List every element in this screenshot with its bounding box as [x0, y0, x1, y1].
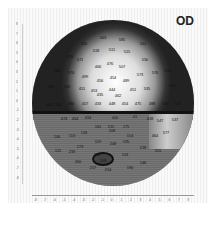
- sensitivity-value: 214: [105, 167, 112, 172]
- sensitivity-value: 571: [77, 57, 84, 62]
- sensitivity-value: 41: [133, 114, 137, 119]
- sensitivity-value: 530: [142, 57, 149, 62]
- sensitivity-value: 573: [137, 72, 144, 77]
- sensitivity-value: 545: [46, 102, 53, 107]
- sensitivity-value: 535: [144, 86, 151, 91]
- y-tick-label: -7: [16, 166, 19, 170]
- x-tick-label: 0: [111, 198, 113, 202]
- sensitivity-value: 515: [124, 49, 131, 54]
- x-axis: [32, 195, 194, 196]
- sensitivity-value: 444: [109, 87, 116, 92]
- x-tick-label: -5: [63, 198, 66, 202]
- sensitivity-value: 464: [152, 133, 159, 138]
- sensitivity-value: 539: [162, 101, 169, 106]
- y-tick-label: 3: [16, 70, 18, 74]
- y-tick-label: 2: [16, 80, 18, 84]
- x-tick-label: -7: [44, 198, 47, 202]
- sensitivity-value: 547: [157, 118, 164, 123]
- sensitivity-value: 206: [54, 134, 61, 139]
- sensitivity-value: 574: [68, 70, 75, 75]
- sensitivity-value: 457: [82, 101, 89, 106]
- sensitivity-value: 208: [110, 141, 117, 146]
- sensitivity-value: 233: [69, 149, 76, 154]
- y-tick-label: 4: [16, 60, 18, 64]
- sensitivity-value: 499: [82, 74, 89, 79]
- y-tick-label: 1: [16, 89, 18, 93]
- sensitivity-value: 456: [97, 78, 104, 83]
- x-tick-label: -6: [53, 198, 56, 202]
- y-tick-label: 8: [16, 22, 18, 26]
- sensitivity-value: 433: [95, 101, 102, 106]
- sensitivity-value: 113: [69, 133, 75, 138]
- x-tick-label: -3: [82, 198, 85, 202]
- x-tick-label: -2: [92, 198, 95, 202]
- y-tick-label: -6: [16, 156, 19, 160]
- sensitivity-value: 196: [127, 165, 134, 170]
- sensitivity-value: 135: [123, 139, 130, 144]
- sensitivity-value: 585: [119, 37, 126, 42]
- sensitivity-value: 217: [90, 165, 97, 170]
- sensitivity-value: 576: [152, 70, 159, 75]
- sensitivity-value: 462: [115, 93, 122, 98]
- sensitivity-value: 532: [64, 84, 71, 89]
- x-tick-label: 5: [159, 198, 161, 202]
- sensitivity-value: 448: [109, 101, 116, 106]
- sensitivity-value: 552: [165, 68, 172, 73]
- sensitivity-value: 119: [95, 139, 101, 144]
- sensitivity-value: 586: [54, 68, 61, 73]
- x-tick-label: 4: [149, 198, 151, 202]
- sensitivity-value: 488: [149, 101, 156, 106]
- sensitivity-value: 435: [97, 92, 104, 97]
- x-tick-label: 6: [168, 198, 170, 202]
- sensitivity-value: 483: [68, 101, 75, 106]
- sensitivity-value: 153: [122, 152, 129, 157]
- sensitivity-value: 476: [107, 61, 114, 66]
- x-tick-label: 2: [130, 198, 132, 202]
- sensitivity-value: 550: [55, 102, 62, 107]
- sensitivity-value: 577: [163, 130, 170, 135]
- x-tick-label: 1: [120, 198, 122, 202]
- sensitivity-value: 161: [95, 124, 102, 129]
- sensitivity-value: 114: [127, 133, 133, 138]
- sensitivity-value: 218: [140, 145, 147, 150]
- sensitivity-value: 118: [100, 158, 106, 163]
- y-tick-label: 6: [16, 41, 18, 45]
- x-tick-label: 7: [178, 198, 180, 202]
- sensitivity-value: 418: [147, 116, 154, 121]
- y-tick-label: 7: [16, 32, 18, 36]
- sensitivity-value: 474: [61, 116, 68, 121]
- y-tick-label: -1: [16, 108, 19, 112]
- y-tick-label: -4: [16, 137, 19, 141]
- sensitivity-value: 555: [169, 83, 176, 88]
- y-tick-label: -8: [16, 176, 19, 180]
- sensitivity-value: 475: [135, 101, 142, 106]
- sensitivity-value: 518: [93, 48, 100, 53]
- sensitivity-value: 454: [122, 101, 129, 106]
- y-tick-label: -3: [16, 128, 19, 132]
- sensitivity-value: 414: [85, 115, 92, 120]
- y-tick-label: -2: [16, 118, 19, 122]
- sensitivity-value: 451: [130, 87, 137, 92]
- y-tick-label: 5: [16, 51, 18, 55]
- sensitivity-value: 208: [109, 128, 116, 133]
- x-tick-label: -4: [72, 198, 75, 202]
- sensitivity-value: 175: [123, 124, 130, 129]
- sensitivity-value: 537: [172, 117, 179, 122]
- sensitivity-value: 511: [109, 47, 115, 52]
- y-tick-label: 0: [16, 99, 18, 103]
- sensitivity-value: 454: [110, 75, 117, 80]
- sensitivity-value: 560: [81, 41, 88, 46]
- sensitivity-value: 273: [77, 144, 84, 149]
- sensitivity-value: 489: [123, 78, 130, 83]
- x-tick-label: -1: [101, 198, 104, 202]
- sensitivity-value: 553: [175, 101, 182, 106]
- x-tick-label: 3: [140, 198, 142, 202]
- sensitivity-value: 133: [81, 130, 88, 135]
- sensitivity-value: 561: [140, 41, 147, 46]
- sensitivity-value: 146: [140, 160, 147, 165]
- x-tick-label: -8: [34, 198, 37, 202]
- x-tick-label: 8: [188, 198, 190, 202]
- y-tick-label: -5: [16, 147, 19, 151]
- sensitivity-value: 507: [119, 64, 126, 69]
- sensitivity-value: 260: [75, 159, 82, 164]
